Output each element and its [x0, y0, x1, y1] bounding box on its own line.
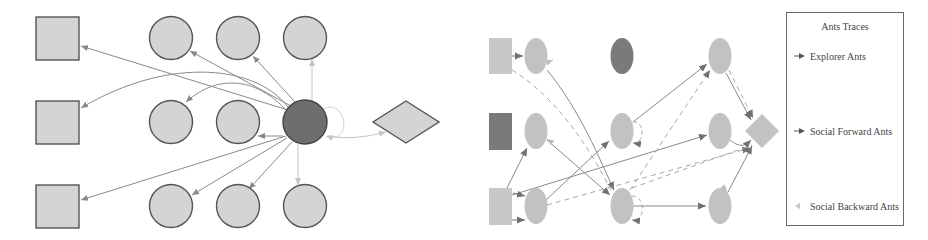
source-square-2 — [36, 101, 79, 144]
right-node-r1c1 — [525, 38, 548, 74]
right-node-r3c3 — [709, 188, 732, 224]
source-square-1 — [36, 17, 79, 60]
right-source-square-3 — [489, 188, 512, 225]
right-node-r2c2 — [611, 113, 634, 149]
circle-node-center-dark — [283, 100, 327, 144]
right-node-r1c3 — [709, 38, 732, 74]
circle-node-r2c1 — [150, 101, 193, 144]
light-edge-e11-back — [548, 60, 553, 62]
circle-node-r1c2 — [217, 17, 260, 60]
edge-e22-e13 — [633, 64, 707, 122]
edge-e31-e22 — [546, 141, 609, 200]
source-square-3 — [36, 185, 79, 228]
edge-rsq3-e21 — [507, 148, 527, 188]
legend-label-social-forward: Social Forward Ants — [810, 126, 892, 137]
legend: Ants Traces Explorer Ants Social Forward… — [787, 13, 904, 226]
legend-label-social-backward: Social Backward Ants — [810, 201, 899, 212]
destination-diamond — [373, 101, 439, 143]
legend-box — [787, 13, 904, 226]
left-graph — [36, 17, 439, 229]
dashed-loop-e22 — [633, 122, 642, 143]
edge-center-to-c32 — [249, 142, 292, 189]
dashed-loop-e32 — [632, 196, 643, 220]
right-node-r1c2-dark — [611, 38, 634, 74]
legend-label-explorer: Explorer Ants — [810, 51, 866, 62]
legend-item-social-backward: Social Backward Ants — [795, 201, 899, 212]
circle-node-r1c1 — [150, 17, 193, 60]
dashed-edge-e32-e13 — [630, 70, 710, 190]
right-graph — [489, 38, 779, 225]
right-source-square-2-dark — [489, 113, 512, 150]
edge-e11-e32 — [547, 70, 614, 190]
ant-traces-figure: Ants Traces Explorer Ants Social Forward… — [0, 0, 928, 240]
dashed-edge-e13-dest — [729, 70, 753, 118]
right-node-r3c2 — [611, 188, 634, 224]
circle-node-r3c3 — [284, 185, 327, 228]
circle-node-r3c1 — [150, 185, 193, 228]
circle-node-r1c3 — [284, 17, 327, 60]
edge-e13-dest — [726, 73, 751, 120]
circle-node-r2c2 — [217, 101, 260, 144]
circle-node-r3c2 — [217, 185, 260, 228]
edge-center-to-c12 — [253, 56, 295, 102]
right-node-r2c3 — [709, 113, 732, 149]
legend-title: Ants Traces — [821, 21, 869, 32]
right-node-r2c1 — [525, 113, 548, 149]
edge-center-to-dest — [328, 132, 386, 138]
right-node-r3c1 — [525, 188, 548, 224]
right-source-square-1 — [489, 38, 512, 74]
edge-e23-dest — [730, 140, 751, 145]
